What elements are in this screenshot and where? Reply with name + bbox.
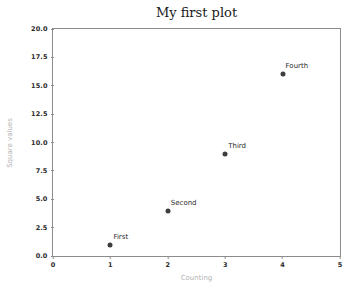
data-point-annotation: Third	[228, 142, 246, 150]
x-axis-tick-mark	[282, 256, 283, 259]
y-axis-tick: 15.0	[31, 82, 53, 90]
data-point-annotation: First	[113, 233, 128, 241]
y-axis-tick-label: 20.0	[31, 25, 50, 33]
plot-area: 0.02.55.07.510.012.515.017.520.0012345Fi…	[52, 28, 341, 257]
x-axis-tick: 2	[165, 256, 170, 269]
x-axis-tick-label: 5	[338, 261, 343, 269]
y-axis-tick-mark	[51, 170, 54, 171]
y-axis-tick-label: 12.5	[31, 110, 50, 118]
x-axis-tick-label: 1	[108, 261, 113, 269]
data-point	[108, 242, 113, 247]
data-point	[223, 151, 228, 156]
y-axis-tick-mark	[51, 199, 54, 200]
y-axis-tick-label: 5.0	[36, 195, 51, 203]
data-point-annotation: Fourth	[286, 62, 309, 70]
x-axis-tick-mark	[53, 256, 54, 259]
y-axis-tick-mark	[51, 227, 54, 228]
y-axis-tick: 10.0	[31, 139, 53, 147]
chart-title: My first plot	[52, 5, 341, 21]
y-axis-tick: 12.5	[31, 110, 53, 118]
y-axis-tick-mark	[51, 142, 54, 143]
y-axis-tick: 7.5	[36, 167, 53, 175]
figure-canvas: My first plot Square values 0.02.55.07.5…	[0, 0, 358, 294]
x-axis-tick-mark	[167, 256, 168, 259]
x-axis-tick-mark	[110, 256, 111, 259]
y-axis-tick-label: 2.5	[36, 224, 51, 232]
y-axis-label-text: Square values	[6, 118, 14, 168]
y-axis-tick: 20.0	[31, 25, 53, 33]
x-axis-tick-mark	[225, 256, 226, 259]
y-axis-tick-label: 15.0	[31, 82, 50, 90]
x-axis-tick-label: 0	[51, 261, 56, 269]
y-axis-tick-mark	[51, 85, 54, 86]
y-axis-tick-mark	[51, 57, 54, 58]
y-axis-tick: 17.5	[31, 53, 53, 61]
x-axis-tick-label: 3	[223, 261, 228, 269]
y-axis-tick-label: 7.5	[36, 167, 51, 175]
y-axis-label: Square values	[4, 28, 16, 257]
x-axis-tick-label: 2	[165, 261, 170, 269]
y-axis-tick-label: 17.5	[31, 53, 50, 61]
y-axis-tick: 5.0	[36, 195, 53, 203]
data-point	[165, 208, 170, 213]
y-axis-tick-label: 10.0	[31, 139, 50, 147]
x-axis-tick-mark	[340, 256, 341, 259]
x-axis-label: Counting	[52, 274, 341, 282]
x-axis-tick: 3	[223, 256, 228, 269]
x-axis-tick-label: 4	[280, 261, 285, 269]
y-axis-tick-mark	[51, 29, 54, 30]
x-axis-tick: 1	[108, 256, 113, 269]
y-axis-tick: 2.5	[36, 224, 53, 232]
y-axis-tick-label: 0.0	[36, 252, 51, 260]
x-axis-tick: 5	[338, 256, 343, 269]
y-axis-tick-mark	[51, 114, 54, 115]
x-axis-tick: 4	[280, 256, 285, 269]
data-point-annotation: Second	[171, 199, 197, 207]
x-axis-tick: 0	[51, 256, 56, 269]
data-point	[280, 72, 285, 77]
